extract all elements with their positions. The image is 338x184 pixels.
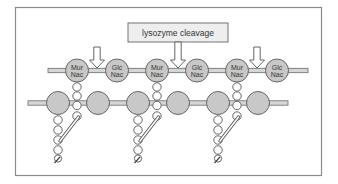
bottom-sugar [247, 92, 270, 115]
bottom-sugar [87, 92, 110, 115]
sugar-label-line1: Mur [151, 64, 164, 71]
amino-acid-bead [153, 83, 161, 91]
amino-acid-bead [233, 83, 241, 91]
murnac-sugar: MurNac [146, 59, 169, 82]
peptidoglycan-diagram: lysozyme cleavage MurNacGlcNacMurNacGlcN… [0, 0, 338, 184]
amino-acid-bead [134, 126, 142, 134]
bottom-sugar [167, 92, 190, 115]
amino-acid-bead [54, 146, 62, 154]
sugar-label-line2: Nac [151, 71, 164, 78]
sugar-label-line2: Nac [271, 71, 284, 78]
lysozyme-cleavage-callout: lysozyme cleavage [128, 23, 228, 42]
sugar-label-line1: Glc [192, 64, 203, 71]
murnac-sugar: MurNac [226, 59, 249, 82]
amino-acid-bead [214, 116, 222, 124]
amino-acid-bead [153, 92, 161, 100]
bottom-sugar [127, 92, 150, 115]
bottom-sugar [207, 92, 230, 115]
sugar-label-line1: Mur [71, 64, 84, 71]
glcnac-sugar: GlcNac [186, 59, 209, 82]
amino-acid-bead [233, 101, 241, 109]
amino-acid-bead [54, 116, 62, 124]
amino-acid-bead [233, 92, 241, 100]
bottom-sugar [47, 92, 70, 115]
sugar-label-line2: Nac [231, 71, 244, 78]
amino-acid-bead [214, 146, 222, 154]
amino-acid-bead [134, 116, 142, 124]
sugar-label-line1: Glc [112, 64, 123, 71]
lysozyme-cleavage-label: lysozyme cleavage [142, 28, 214, 38]
amino-acid-bead [134, 146, 142, 154]
glcnac-sugar: GlcNac [266, 59, 289, 82]
sugar-label-line2: Nac [71, 71, 84, 78]
sugar-label-line1: Mur [231, 64, 244, 71]
murnac-sugar: MurNac [66, 59, 89, 82]
sugar-label-line1: Glc [272, 64, 283, 71]
amino-acid-bead [73, 92, 81, 100]
amino-acid-bead [73, 101, 81, 109]
amino-acid-bead [214, 126, 222, 134]
amino-acid-bead [54, 126, 62, 134]
amino-acid-bead [153, 101, 161, 109]
glcnac-sugar: GlcNac [106, 59, 129, 82]
sugar-label-line2: Nac [191, 71, 204, 78]
sugar-label-line2: Nac [111, 71, 124, 78]
amino-acid-bead [73, 83, 81, 91]
